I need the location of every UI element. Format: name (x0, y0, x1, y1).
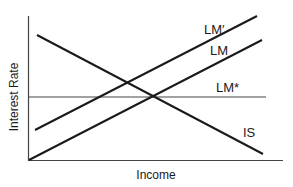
diagram-canvas: LM′ LM LM* IS Income Interest Rate (0, 0, 293, 187)
lm-star-label: LM* (216, 80, 239, 95)
lm-prime-label: LM′ (204, 22, 225, 37)
is-lm-diagram: LM′ LM LM* IS Income Interest Rate (0, 0, 293, 187)
lm-curve (29, 40, 262, 160)
x-axis-label: Income (136, 168, 176, 182)
is-label: IS (243, 125, 256, 140)
lm-label: LM (210, 43, 228, 58)
y-axis-label: Interest Rate (7, 62, 21, 131)
